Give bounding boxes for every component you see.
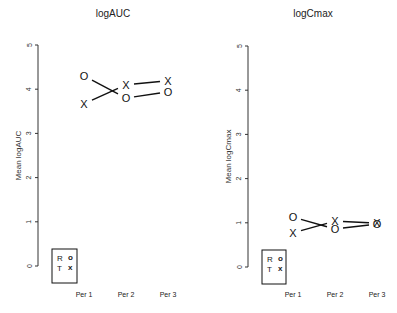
y-tick-label: 4 — [26, 87, 33, 91]
data-point-R: O — [164, 86, 173, 98]
x-category-label: Per 3 — [369, 291, 386, 298]
y-tick-label: 5 — [26, 43, 33, 47]
data-point-T: X — [289, 227, 297, 239]
data-point-R: O — [122, 92, 131, 104]
chart-canvas: logAUC012345Mean logAUCPer 1Per 2Per 3OO… — [0, 0, 397, 313]
series-line-R — [92, 80, 118, 94]
legend-symbol: o — [278, 254, 283, 263]
x-category-label: Per 3 — [160, 291, 177, 298]
y-axis-label: Mean logCmax — [224, 130, 233, 184]
data-point-T: X — [331, 215, 339, 227]
legend-label: T — [57, 264, 62, 273]
x-category-label: Per 1 — [76, 291, 93, 298]
y-axis-label: Mean logAUC — [14, 130, 23, 180]
x-category-label: Per 1 — [285, 291, 302, 298]
y-tick-label: 0 — [26, 264, 33, 268]
chart-panel-logCmax: logCmax012345Mean logCmaxPer 1Per 2Per 3… — [224, 8, 386, 298]
legend-symbol: x — [68, 263, 73, 272]
chart-panel-logAUC: logAUC012345Mean logAUCPer 1Per 2Per 3OO… — [14, 8, 177, 298]
data-point-T: X — [122, 79, 130, 91]
data-point-T: X — [164, 75, 172, 87]
y-tick-label: 3 — [236, 132, 243, 136]
chart-title: logCmax — [293, 8, 332, 19]
legend: RoTx — [262, 250, 286, 284]
series-line-T — [134, 82, 160, 84]
legend-label: T — [267, 265, 272, 274]
data-point-R: O — [80, 70, 89, 82]
data-point-T: X — [373, 217, 381, 229]
legend-symbol: o — [68, 253, 73, 262]
legend-label: R — [267, 255, 273, 264]
y-tick-label: 4 — [236, 88, 243, 92]
series-line-T — [301, 223, 327, 230]
y-tick-label: 0 — [236, 265, 243, 269]
legend-symbol: x — [278, 264, 283, 273]
legend-label: R — [57, 254, 63, 263]
x-category-label: Per 2 — [327, 291, 344, 298]
series-line-T — [92, 88, 118, 100]
series-line-R — [343, 225, 369, 228]
data-point-R: O — [289, 211, 298, 223]
chart-title: logAUC — [96, 8, 130, 19]
y-tick-label: 3 — [26, 131, 33, 135]
x-category-label: Per 2 — [118, 291, 135, 298]
y-tick-label: 2 — [26, 176, 33, 180]
legend: RoTx — [52, 249, 77, 283]
y-tick-label: 1 — [26, 220, 33, 224]
data-point-T: X — [80, 98, 88, 110]
y-tick-label: 1 — [236, 221, 243, 225]
series-line-R — [134, 93, 160, 97]
series-line-T — [343, 221, 369, 222]
y-tick-label: 2 — [236, 177, 243, 181]
series-line-R — [301, 219, 327, 226]
y-tick-label: 5 — [236, 44, 243, 48]
